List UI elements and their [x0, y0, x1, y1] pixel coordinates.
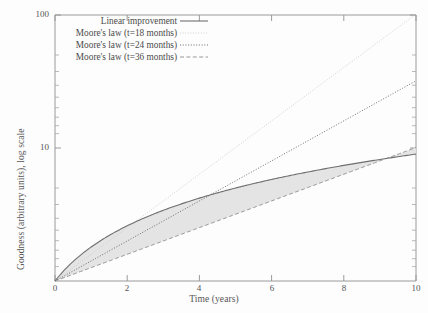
x-tick-label-6: 6: [257, 283, 287, 293]
legend-item-moores-law-18-months: Moore's law (t=18 months): [56, 27, 208, 39]
x-tick-label-8: 8: [329, 283, 359, 293]
x-tick-label-10: 10: [401, 283, 428, 293]
x-tick-label-0: 0: [40, 283, 70, 293]
y-axis-title: Goodness (arbitrary units), log scale: [16, 128, 26, 270]
legend-sample-fine-dotted-line: [180, 28, 208, 38]
y-tick-label-100: 100: [19, 9, 49, 19]
series-linear-improvement: [55, 154, 416, 281]
legend-label-linear-improvement: Linear improvement: [101, 16, 180, 26]
legend-sample-solid-line: [180, 16, 208, 26]
legend-label-moores-law-18-months: Moore's law (t=18 months): [76, 28, 180, 38]
legend-sample-dotted-line: [180, 40, 208, 50]
legend-item-moores-law-36-months: Moore's law (t=36 months): [56, 51, 208, 63]
series-moores-law-36-months: [55, 148, 416, 281]
x-tick-label-2: 2: [112, 283, 142, 293]
legend-item-linear-improvement: Linear improvement: [56, 15, 208, 27]
legend-item-moores-law-24-months: Moore's law (t=24 months): [56, 39, 208, 51]
chart-figure: 100 10 0 2 4 6 8 10 Time (years) Goodnes…: [0, 0, 428, 313]
x-axis-title: Time (years): [0, 294, 428, 304]
legend-label-moores-law-24-months: Moore's law (t=24 months): [76, 40, 180, 50]
x-tick-label-4: 4: [184, 283, 214, 293]
legend-sample-dashed-line: [180, 52, 208, 62]
legend-label-moores-law-36-months: Moore's law (t=36 months): [76, 52, 180, 62]
